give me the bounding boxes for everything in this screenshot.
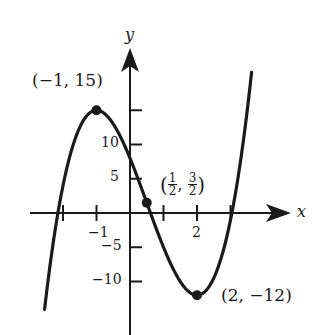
open-paren: (: [160, 173, 168, 197]
fraction-x: 12: [168, 172, 178, 197]
y-tick-label-neg10: −10: [92, 271, 122, 287]
x-axis-label: x: [297, 202, 306, 221]
y-tick-label-5: 5: [110, 168, 119, 184]
point-marker: [92, 105, 102, 115]
point-marker: [142, 198, 152, 208]
y-tick-label-neg5: −5: [101, 237, 122, 253]
x-tick-label-2: 2: [192, 224, 201, 240]
min-point-label: (2, −12): [221, 285, 292, 305]
cubic-curve: [45, 72, 252, 309]
y-axis-label: y: [125, 25, 134, 44]
fraction-y-denominator: 2: [188, 185, 198, 197]
axis-ticks: [63, 110, 231, 281]
inflection-point-label: (12, 32): [160, 172, 205, 197]
max-point-label: (−1, 15): [32, 70, 103, 90]
fraction-y: 32: [188, 172, 198, 197]
fraction-x-denominator: 2: [168, 185, 178, 197]
point-marker: [192, 290, 202, 300]
comma: ,: [177, 175, 182, 194]
y-tick-label-10: 10: [101, 134, 119, 150]
close-paren: ): [197, 173, 205, 197]
